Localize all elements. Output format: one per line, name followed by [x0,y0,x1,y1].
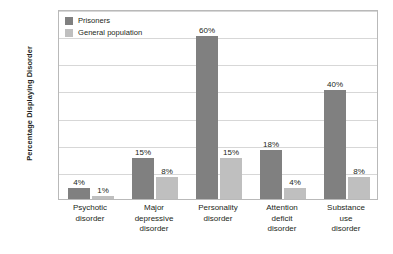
category-label: Majordepressivedisorder [122,203,186,235]
bar-value-label: 4% [277,178,313,187]
bar-value-label: 15% [213,148,249,157]
category-label-line: disorder [186,214,250,225]
bar-chart: Percentage Displaying Disorder 4%1%15%8%… [0,0,393,254]
bar-value-label: 8% [149,167,185,176]
legend-swatch-icon [65,29,73,37]
category-label-line: use [314,214,378,225]
category-label: Substanceusedisorder [314,203,378,235]
category-label-line: disorder [58,214,122,225]
bar-group: 18%4% [251,11,315,199]
bar [220,158,242,199]
bar [156,177,178,199]
bars-layer: 4%1%15%8%60%15%18%4%40%8% [59,11,377,199]
bar-value-label: 40% [317,80,353,89]
chart-legend: Prisoners General population [65,15,142,39]
y-axis-title: Percentage Displaying Disorder [25,19,34,189]
legend-item-prisoners: Prisoners [65,15,142,26]
category-label-line: disorder [122,224,186,235]
bar [284,188,306,199]
bar-group: 15%8% [123,11,187,199]
bar-group: 4%1% [59,11,123,199]
category-label: Psychoticdisorder [58,203,122,224]
legend-label: General population [78,28,142,37]
bar-value-label: 8% [341,167,377,176]
x-axis-category-labels: PsychoticdisorderMajordepressivedisorder… [58,203,378,251]
category-label-line: Attention [250,203,314,214]
category-label-line: deficit [250,214,314,225]
bar [196,36,218,199]
legend-label: Prisoners [78,16,110,25]
category-label-line: disorder [314,224,378,235]
category-label: Attentiondeficitdisorder [250,203,314,235]
category-label-line: Substance [314,203,378,214]
bar [132,158,154,199]
bar [348,177,370,199]
bar [92,196,114,199]
legend-item-general-population: General population [65,27,142,38]
category-label-line: disorder [250,224,314,235]
category-label-line: Personality [186,203,250,214]
category-label-line: Major [122,203,186,214]
legend-swatch-icon [65,17,73,25]
bar-group: 40%8% [315,11,379,199]
bar-group: 60%15% [187,11,251,199]
bar-value-label: 60% [189,26,225,35]
category-label: Personalitydisorder [186,203,250,224]
category-label-line: depressive [122,214,186,225]
bar [260,150,282,199]
bar-value-label: 1% [85,186,121,195]
bar [324,90,346,199]
bar-value-label: 15% [125,148,161,157]
category-label-line: Psychotic [58,203,122,214]
plot-area: 4%1%15%8%60%15%18%4%40%8% Prisoners Gene… [58,10,378,200]
bar-value-label: 18% [253,140,289,149]
